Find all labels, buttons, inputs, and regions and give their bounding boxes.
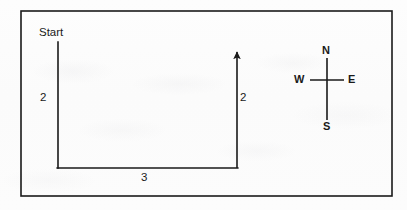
compass-north-label: N: [322, 45, 330, 56]
compass-south-label: S: [323, 121, 330, 132]
right-segment-length-label: 2: [240, 92, 246, 104]
figure-canvas: Start 2 2 3 N S W E: [0, 0, 407, 210]
compass-east-label: E: [348, 74, 355, 85]
compass-west-label: W: [294, 74, 304, 85]
bottom-segment-length-label: 3: [141, 172, 147, 184]
left-segment-length-label: 2: [40, 92, 46, 104]
start-label: Start: [39, 27, 63, 39]
